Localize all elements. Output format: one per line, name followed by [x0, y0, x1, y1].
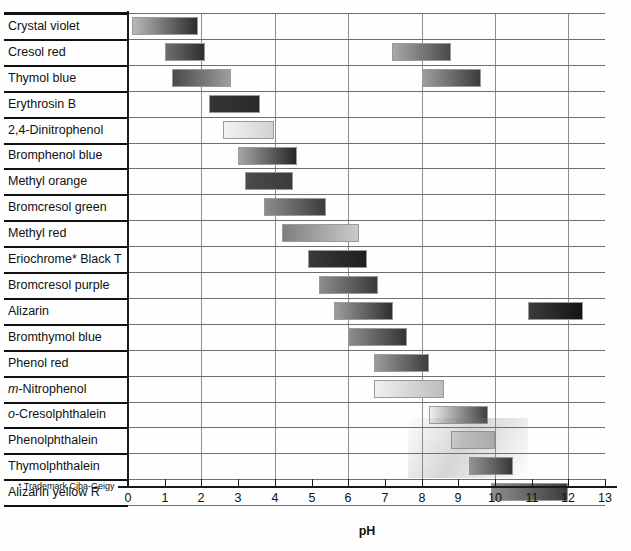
tick-label-ph-13: 13 [590, 492, 620, 505]
footnote-trademark: * Trademark Ciba-Geigy [18, 482, 115, 491]
indicator-label-5: 2,4-Dinitrophenol [8, 124, 103, 137]
range-bar [429, 406, 488, 424]
tick-ph-3 [238, 479, 239, 486]
label-row-separator [4, 39, 128, 41]
tick-label-ph-6: 6 [333, 492, 363, 505]
range-bar [282, 224, 359, 242]
row-gridline [128, 220, 605, 221]
tick-ph-6 [348, 479, 349, 486]
row-gridline [128, 376, 605, 377]
range-bar [451, 431, 495, 449]
indicator-label-2: Cresol red [8, 46, 66, 59]
tick-ph-8 [422, 479, 423, 486]
range-bar [422, 69, 481, 87]
range-bar [392, 43, 451, 61]
range-bar [308, 250, 367, 268]
range-bar [172, 69, 231, 87]
row-gridline [128, 427, 605, 428]
label-row-separator [4, 376, 128, 378]
indicator-label-18: Thymolphthalein [8, 460, 100, 473]
tick-ph-11 [532, 479, 533, 486]
label-row-separator [4, 350, 128, 352]
tick-ph-1 [165, 479, 166, 486]
label-row-separator [4, 324, 128, 326]
label-row-separator [4, 220, 128, 222]
row-gridline [128, 117, 605, 118]
row-gridline [128, 272, 605, 273]
row-gridline [128, 505, 605, 506]
tick-label-ph-3: 3 [223, 492, 253, 505]
indicator-label-3: Thymol blue [8, 72, 76, 85]
tick-label-ph-10: 10 [480, 492, 510, 505]
tick-label-ph-7: 7 [370, 492, 400, 505]
label-row-separator [4, 194, 128, 196]
tick-ph-5 [312, 479, 313, 486]
label-row-separator [4, 298, 128, 300]
tick-label-ph-4: 4 [260, 492, 290, 505]
tick-ph-13 [605, 479, 606, 486]
row-gridline [128, 143, 605, 144]
range-bar [374, 380, 444, 398]
row-gridline [128, 168, 605, 169]
y-axis-line [127, 11, 129, 488]
indicator-label-6: Bromphenol blue [8, 149, 103, 162]
tick-label-ph-0: 0 [113, 492, 143, 505]
label-bottom-rule [4, 505, 128, 507]
row-gridline [128, 91, 605, 92]
range-bar [264, 198, 326, 216]
indicator-label-16: o-Cresolphthalein [8, 408, 106, 421]
row-gridline [128, 350, 605, 351]
range-bar [223, 121, 274, 139]
range-bar [334, 302, 393, 320]
range-bar [209, 95, 260, 113]
row-gridline [128, 13, 605, 14]
tick-label-ph-9: 9 [443, 492, 473, 505]
tick-ph-2 [201, 479, 202, 486]
x-axis-line [118, 486, 617, 488]
tick-ph-12 [568, 479, 569, 486]
indicator-label-7: Methyl orange [8, 175, 87, 188]
tick-label-ph-12: 12 [553, 492, 583, 505]
label-row-separator [4, 91, 128, 93]
row-gridline [128, 402, 605, 403]
tick-label-ph-5: 5 [297, 492, 327, 505]
tick-ph-0 [128, 479, 129, 486]
range-bar [238, 147, 297, 165]
gridline-ph-4 [275, 13, 276, 486]
indicator-label-8: Bromcresol green [8, 201, 107, 214]
range-bar [319, 276, 378, 294]
range-bar [528, 302, 583, 320]
label-row-separator [4, 117, 128, 119]
tick-ph-7 [385, 479, 386, 486]
tick-ph-10 [495, 479, 496, 486]
label-row-separator [4, 143, 128, 145]
row-gridline [128, 194, 605, 195]
range-bar [245, 172, 293, 190]
range-bar [348, 328, 407, 346]
gridline-ph-10 [495, 13, 496, 486]
label-row-separator [4, 427, 128, 429]
gridline-ph-12 [568, 13, 569, 486]
row-gridline [128, 453, 605, 454]
indicator-label-11: Bromcresol purple [8, 279, 109, 292]
indicator-label-4: Erythrosin B [8, 98, 76, 111]
tick-label-ph-8: 8 [407, 492, 437, 505]
label-row-separator [4, 246, 128, 248]
label-row-separator [4, 168, 128, 170]
label-row-separator [4, 402, 128, 404]
indicator-label-10: Eriochrome* Black T [8, 253, 122, 266]
tick-ph-4 [275, 479, 276, 486]
label-row-separator [4, 272, 128, 274]
tick-label-ph-1: 1 [150, 492, 180, 505]
indicator-label-12: Alizarin [8, 305, 49, 318]
indicator-label-14: Phenol red [8, 357, 68, 370]
tick-label-ph-11: 11 [517, 492, 547, 505]
x-axis-title: pH [327, 525, 407, 538]
indicator-label-15: m-Nitrophenol [8, 383, 87, 396]
row-gridline [128, 298, 605, 299]
row-gridline [128, 65, 605, 66]
row-gridline [128, 324, 605, 325]
label-row-separator [4, 65, 128, 67]
range-bar [469, 457, 513, 475]
indicator-label-1: Crystal violet [8, 20, 80, 33]
